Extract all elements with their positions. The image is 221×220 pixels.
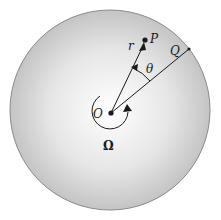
origin-dot	[108, 110, 113, 115]
label-q: Q	[170, 44, 180, 58]
label-p: P	[149, 32, 159, 46]
disk	[10, 10, 210, 210]
point-p-dot	[142, 37, 147, 42]
rotating-disk-diagram: O P Q r θ Ω	[0, 0, 221, 220]
label-origin: O	[93, 107, 103, 121]
point-q-dot	[187, 47, 190, 50]
label-omega: Ω	[103, 139, 114, 153]
label-theta: θ	[146, 62, 154, 76]
